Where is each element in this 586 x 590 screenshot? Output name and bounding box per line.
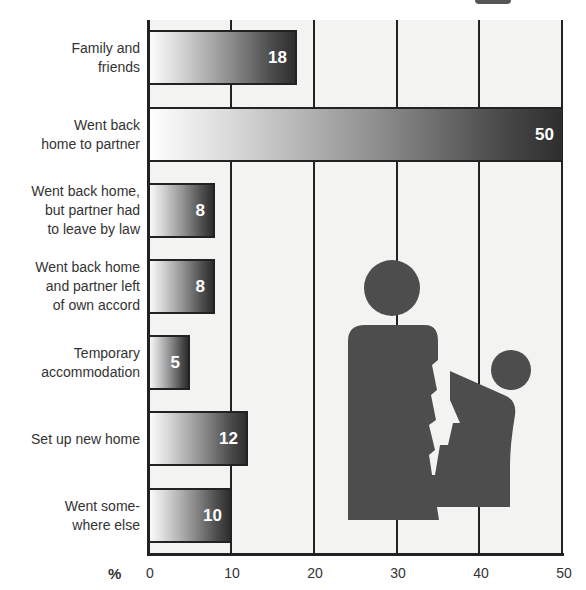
x-tick: 50 xyxy=(556,565,572,581)
x-axis-line xyxy=(147,553,564,556)
family-split-pictogram-icon xyxy=(345,258,535,520)
bar-value: 18 xyxy=(268,48,287,68)
bar-set-up-new-home: 12 xyxy=(148,411,248,466)
bar-went-somewhere-else: 10 xyxy=(148,488,232,543)
bar-family-and-friends: 18 xyxy=(148,30,297,85)
bar-went-back-home-to-partner: 50 xyxy=(148,107,562,162)
decoration xyxy=(475,0,511,4)
bar-value: 12 xyxy=(219,429,238,449)
category-label: Family and friends xyxy=(0,39,140,77)
bar-partner-left-own-accord: 8 xyxy=(148,259,215,314)
category-label: Set up new home xyxy=(0,430,140,449)
bar-value: 5 xyxy=(171,353,180,373)
bar-partner-left-by-law: 8 xyxy=(148,183,215,238)
gridline-10 xyxy=(230,20,232,554)
y-axis-line xyxy=(147,20,150,555)
gridline-50 xyxy=(561,20,563,554)
category-label: Went back home and partner left of own a… xyxy=(0,258,140,315)
x-tick: 30 xyxy=(390,565,406,581)
x-tick: 10 xyxy=(224,565,240,581)
bar-value: 10 xyxy=(203,506,222,526)
bar-temporary-accommodation: 5 xyxy=(148,335,190,390)
category-label: Temporary accommodation xyxy=(0,344,140,382)
x-tick: 0 xyxy=(146,565,154,581)
category-label: Went some- where else xyxy=(0,497,140,535)
category-label: Went back home, but partner had to leave… xyxy=(0,182,140,239)
x-tick: 20 xyxy=(307,565,323,581)
bar-value: 8 xyxy=(196,277,205,297)
x-tick: 40 xyxy=(473,565,489,581)
bar-value: 50 xyxy=(535,125,554,145)
x-axis-unit: % xyxy=(108,565,121,582)
gridline-20 xyxy=(313,20,315,554)
chart: 18 50 8 8 5 12 10 Family and friends Wen… xyxy=(0,0,586,590)
bar-value: 8 xyxy=(196,201,205,221)
category-label: Went back home to partner xyxy=(0,116,140,154)
